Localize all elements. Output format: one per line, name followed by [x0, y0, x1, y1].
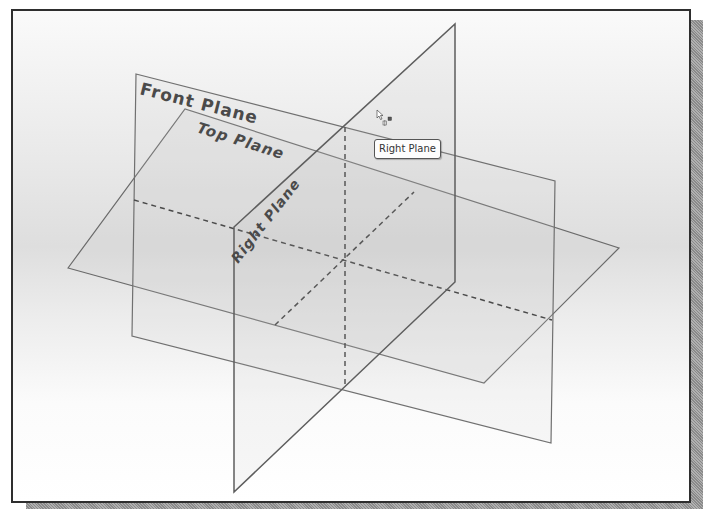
right-plane[interactable] [234, 24, 455, 492]
figure-stage: Front Plane Top Plane Right Plane Right … [0, 0, 706, 511]
graphics-viewport[interactable]: Front Plane Top Plane Right Plane Right … [11, 9, 691, 503]
planes-canvas: Front Plane Top Plane Right Plane [11, 9, 691, 503]
select-filter-square-icon [388, 117, 392, 121]
plane-select-marker-icon [383, 120, 387, 126]
arrow-pointer-icon [376, 104, 396, 134]
hover-tooltip: Right Plane [374, 139, 441, 159]
